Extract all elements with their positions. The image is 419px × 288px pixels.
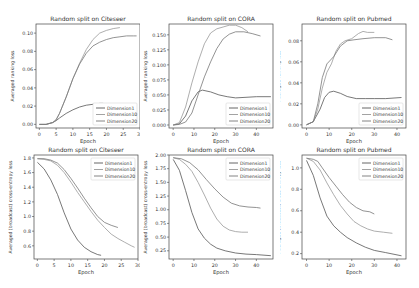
x-tick-label: 10 <box>326 132 332 137</box>
chart-svg: Random split on CORA0102030400.250.500.7… <box>140 144 280 288</box>
y-tick-label: 0.06 <box>22 67 33 72</box>
y-axis-label: Averaged (broadcast) cross-entropy loss <box>8 160 13 253</box>
chart-title: Random split on Pubmed <box>316 146 391 154</box>
legend-entry: Dimension20 <box>105 174 135 179</box>
legend-entry: Dimension10 <box>107 112 137 117</box>
x-tick-label: 30 <box>371 263 377 268</box>
legend-entry: Dimension20 <box>240 119 270 124</box>
y-tick-label: 0.2 <box>291 251 299 256</box>
legend-entry: Dimension10 <box>373 112 403 117</box>
y-tick-label: 1.6 <box>23 170 31 175</box>
x-tick-label: 0 <box>38 132 41 137</box>
x-tick-label: 40 <box>394 132 400 137</box>
y-tick-label: 1.0 <box>23 214 31 219</box>
y-tick-label: 0.00 <box>22 122 33 127</box>
chart-title: Random split on CORA <box>187 146 255 154</box>
y-tick-label: 0.08 <box>22 49 33 54</box>
x-tick-label: 20 <box>103 132 109 137</box>
chart-svg: Random split on CORA0102030400.0000.0250… <box>140 0 280 144</box>
x-tick-label: 0 <box>172 132 175 137</box>
x-tick-label: 20 <box>212 132 218 137</box>
x-tick-label: 30 <box>233 263 239 268</box>
chart-title: Random split on Citeseer <box>48 146 124 154</box>
x-tick-label: 0 <box>172 263 175 268</box>
y-axis-label: Averaged ranking loss <box>10 50 15 102</box>
x-tick-label: 30 <box>371 132 377 137</box>
panel-top-middle: Random split on CORA0102030400.0000.0250… <box>140 0 280 144</box>
chart-svg: Random split on Citeseer0510152025300.60… <box>0 144 140 288</box>
panel-bottom-right: Random split on Pubmed0102030400.20.40.6… <box>280 144 419 288</box>
x-tick-label: 0 <box>305 132 308 137</box>
y-tick-label: 2.00 <box>155 153 166 158</box>
legend-entry: Dimension20 <box>373 119 403 124</box>
panel-bottom-left: Random split on Citeseer0510152025300.60… <box>0 144 140 288</box>
x-tick-label: 10 <box>191 263 197 268</box>
legend-entry: Dimension1 <box>240 106 267 111</box>
legend-entry: Dimension10 <box>240 167 270 172</box>
legend-entry: Dimension20 <box>373 174 403 179</box>
chart-title: Random split on Citeseer <box>50 15 126 23</box>
x-tick-label: 10 <box>191 132 197 137</box>
legend-entry: Dimension10 <box>240 112 270 117</box>
y-axis-label: Averaged ranking loss <box>143 50 148 102</box>
y-tick-label: 0.100 <box>152 63 166 68</box>
y-tick-label: 0.04 <box>22 86 33 91</box>
legend-entry: Dimension1 <box>105 161 132 166</box>
y-tick-label: 0.025 <box>152 108 166 113</box>
y-tick-label: 1.4 <box>23 185 31 190</box>
legend-entry: Dimension10 <box>105 167 135 172</box>
x-tick-label: 0 <box>305 263 308 268</box>
y-tick-label: 1.50 <box>155 180 166 185</box>
x-axis-label: Epoch <box>346 269 362 276</box>
x-tick-label: 30 <box>233 132 239 137</box>
panel-bottom-middle: Random split on CORA0102030400.250.500.7… <box>140 144 280 288</box>
y-tick-label: 0.00 <box>288 123 299 128</box>
y-axis-label: Averaged (broadcast) cross-entropy loss <box>280 160 281 253</box>
y-tick-label: 0.02 <box>288 102 299 107</box>
y-tick-label: 0.08 <box>288 39 299 44</box>
x-tick-label: 10 <box>68 263 74 268</box>
y-tick-label: 1.2 <box>23 200 31 205</box>
y-tick-label: 0.10 <box>22 31 33 36</box>
y-tick-label: 1.75 <box>155 166 166 171</box>
chart-title: Random split on Pubmed <box>316 15 391 23</box>
legend-entry: Dimension1 <box>373 161 400 166</box>
y-tick-label: 0.050 <box>152 93 166 98</box>
x-tick-label: 40 <box>394 263 400 268</box>
legend-entry: Dimension1 <box>240 161 267 166</box>
y-tick-label: 0.6 <box>291 208 299 213</box>
legend-entry: Dimension10 <box>373 167 403 172</box>
x-tick-label: 40 <box>253 132 259 137</box>
y-tick-label: 1.00 <box>155 207 166 212</box>
chart-svg: Random split on Citeseer0510152025300.00… <box>0 0 140 144</box>
x-axis-label: Epoch <box>213 269 229 276</box>
legend-entry: Dimension20 <box>107 119 137 124</box>
legend-entry: Dimension20 <box>240 174 270 179</box>
y-tick-label: 1.0 <box>291 166 299 171</box>
x-tick-label: 20 <box>101 263 107 268</box>
y-axis-label: Averaged (broadcast) cross-entropy loss <box>143 160 148 253</box>
x-tick-label: 5 <box>53 263 56 268</box>
y-tick-label: 0.000 <box>152 123 166 128</box>
x-tick-label: 20 <box>212 263 218 268</box>
x-tick-label: 20 <box>349 132 355 137</box>
panel-top-right: Random split on Pubmed0102030400.000.020… <box>280 0 419 144</box>
x-tick-label: 0 <box>36 263 39 268</box>
y-tick-label: 0.6 <box>23 244 31 249</box>
x-tick-label: 40 <box>253 263 259 268</box>
y-tick-label: 1.25 <box>155 194 166 199</box>
y-tick-label: 1.8 <box>23 156 31 161</box>
chart-title: Random split on CORA <box>187 15 255 23</box>
x-tick-label: 20 <box>349 263 355 268</box>
y-tick-label: 0.4 <box>291 230 299 235</box>
y-tick-label: 0.150 <box>152 33 166 38</box>
legend-entry: Dimension1 <box>107 106 134 111</box>
y-tick-label: 0.06 <box>288 60 299 65</box>
y-tick-label: 0.075 <box>152 78 166 83</box>
x-tick-label: 25 <box>120 132 126 137</box>
chart-svg: Random split on Pubmed0102030400.20.40.6… <box>280 144 419 288</box>
panel-top-left: Random split on Citeseer0510152025300.00… <box>0 0 140 144</box>
y-axis-label: Averaged ranking loss <box>280 50 281 102</box>
x-tick-label: 15 <box>85 263 91 268</box>
x-tick-label: 25 <box>118 263 124 268</box>
